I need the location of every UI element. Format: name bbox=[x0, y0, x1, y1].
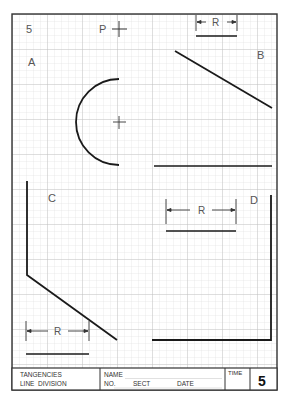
time-label: TIME bbox=[228, 370, 242, 376]
point-p-label: P bbox=[99, 23, 106, 35]
radius-label-top: R bbox=[212, 17, 219, 28]
sheet-number-bottom: 5 bbox=[258, 373, 266, 389]
date-label: DATE bbox=[177, 380, 195, 387]
title-line-1: TANGENCIES bbox=[20, 371, 62, 378]
problem-b-label: B bbox=[257, 49, 264, 61]
radius-label-d: R bbox=[198, 205, 205, 216]
title-line-2: LINE DIVISION bbox=[20, 380, 67, 387]
problem-c-label: C bbox=[48, 192, 56, 204]
name-label: NAME bbox=[104, 371, 123, 378]
problem-a-label: A bbox=[28, 56, 36, 68]
sheet-number-top: 5 bbox=[26, 23, 32, 35]
no-label: NO. bbox=[104, 380, 116, 387]
radius-label-c: R bbox=[54, 326, 61, 337]
drawing-sheet: 5 P A R B C R D bbox=[0, 0, 290, 402]
sect-label: SECT bbox=[133, 380, 150, 387]
problem-d-label: D bbox=[250, 194, 258, 206]
